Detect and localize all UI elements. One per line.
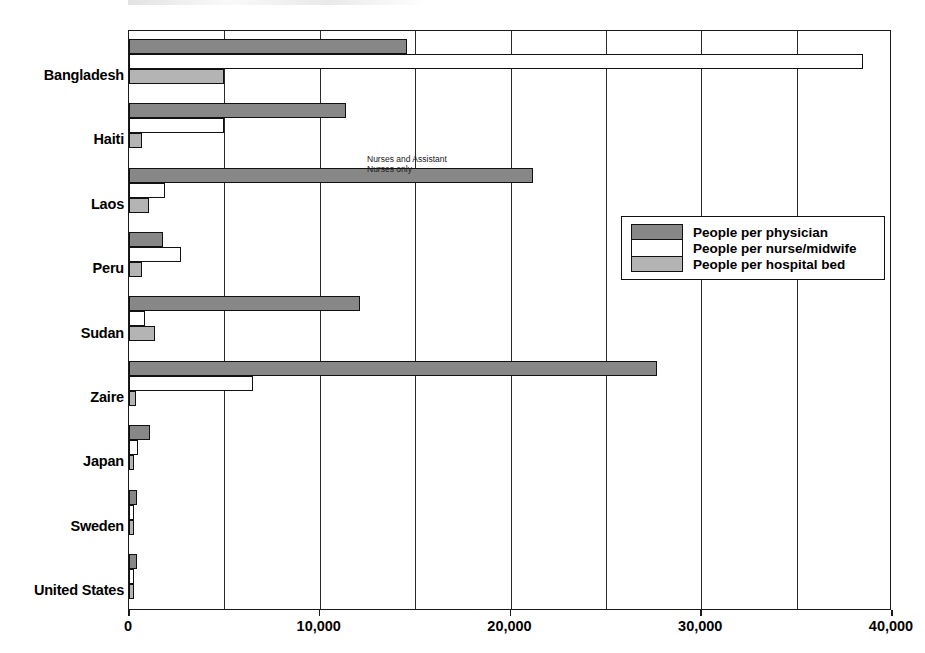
x-tick-mark <box>891 610 893 616</box>
bar-nurse <box>129 569 134 584</box>
bar-physician <box>129 425 150 440</box>
annotation-nurses-note: Nurses and Assistant Nurses only <box>367 154 447 175</box>
bar-nurse <box>129 54 863 69</box>
bar-physician <box>129 361 657 376</box>
y-axis-label-haiti: Haiti <box>0 131 124 147</box>
bar-physician <box>129 490 137 505</box>
x-axis: 010,00020,00030,00040,000 <box>128 610 891 650</box>
x-tick-mark <box>510 610 512 616</box>
bar-nurse <box>129 118 224 133</box>
bar-bed <box>129 326 155 341</box>
x-tick-label: 10,000 <box>297 618 341 634</box>
bar-bed <box>129 69 224 84</box>
legend-item-physician: People per physician <box>631 224 875 240</box>
y-axis-label-united-states: United States <box>0 582 124 598</box>
y-axis-label-sweden: Sweden <box>0 518 124 534</box>
bar-nurse <box>129 376 253 391</box>
bar-physician <box>129 296 360 311</box>
bar-group <box>129 547 890 611</box>
bar-group <box>129 482 890 546</box>
bar-bed <box>129 520 134 535</box>
y-axis-label-japan: Japan <box>0 453 124 469</box>
bar-bed <box>129 584 134 599</box>
y-axis-label-sudan: Sudan <box>0 325 124 341</box>
legend-label-physician: People per physician <box>693 225 828 240</box>
legend-label-bed: People per hospital bed <box>693 257 845 272</box>
bar-nurse <box>129 505 134 520</box>
plot-area: Nurses and Assistant Nurses only <box>128 30 891 610</box>
horizontal-bar-chart: BangladeshHaitiLaosPeruSudanZaireJapanSw… <box>0 0 925 653</box>
x-tick-mark <box>700 610 702 616</box>
y-axis-category-labels: BangladeshHaitiLaosPeruSudanZaireJapanSw… <box>0 30 124 610</box>
y-axis-label-peru: Peru <box>0 260 124 276</box>
bar-group <box>129 418 890 482</box>
legend-swatch-nurse <box>631 240 683 256</box>
x-tick-label: 0 <box>124 618 132 634</box>
bar-nurse <box>129 247 181 262</box>
bar-physician <box>129 103 346 118</box>
bar-bed <box>129 391 136 406</box>
y-axis-label-bangladesh: Bangladesh <box>0 67 124 83</box>
legend-swatch-physician <box>631 224 683 240</box>
bar-group <box>129 353 890 417</box>
legend-label-nurse: People per nurse/midwife <box>693 241 857 256</box>
x-tick-mark <box>128 610 130 616</box>
legend-swatch-bed <box>631 256 683 272</box>
bar-bed <box>129 455 134 470</box>
x-tick-mark <box>319 610 321 616</box>
bar-group <box>129 289 890 353</box>
bar-bed <box>129 262 142 277</box>
bar-physician <box>129 554 137 569</box>
bar-group <box>129 31 890 95</box>
y-axis-label-zaire: Zaire <box>0 389 124 405</box>
legend-item-nurse: People per nurse/midwife <box>631 240 875 256</box>
bar-physician <box>129 168 533 183</box>
bar-nurse <box>129 440 138 455</box>
chart-legend: People per physician People per nurse/mi… <box>621 216 885 280</box>
bar-bed <box>129 198 149 213</box>
y-axis-label-laos: Laos <box>0 196 124 212</box>
bar-nurse <box>129 311 145 326</box>
bar-physician <box>129 232 163 247</box>
x-tick-label: 30,000 <box>678 618 722 634</box>
scan-artifact-strip <box>128 0 428 5</box>
x-tick-label: 20,000 <box>487 618 531 634</box>
x-tick-label: 40,000 <box>869 618 913 634</box>
bar-bed <box>129 133 142 148</box>
legend-item-bed: People per hospital bed <box>631 256 875 272</box>
bar-physician <box>129 39 407 54</box>
bar-group <box>129 95 890 159</box>
bar-group <box>129 160 890 224</box>
bar-nurse <box>129 183 165 198</box>
